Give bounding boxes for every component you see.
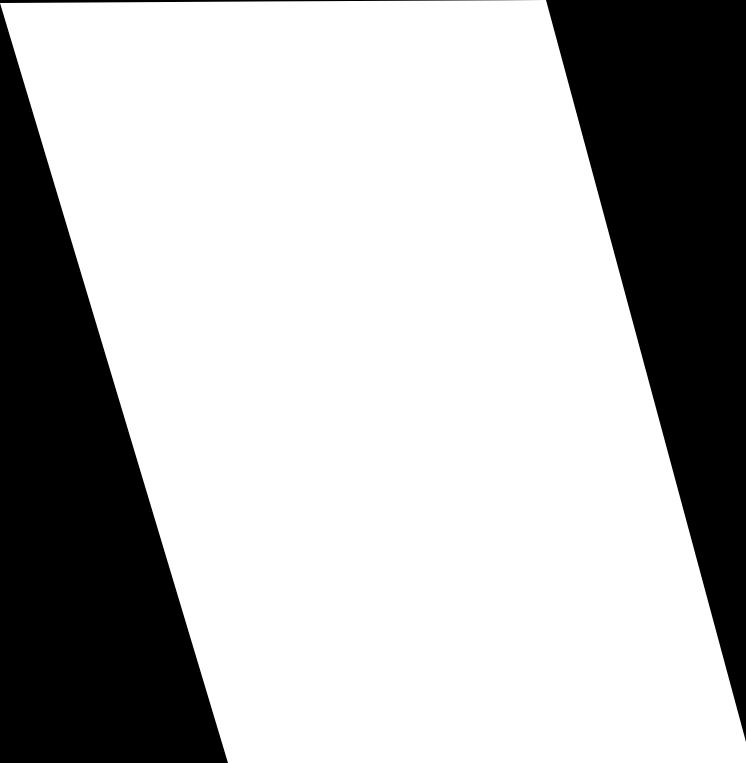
scene-canvas (0, 0, 746, 763)
parallelogram-shape (0, 0, 746, 763)
